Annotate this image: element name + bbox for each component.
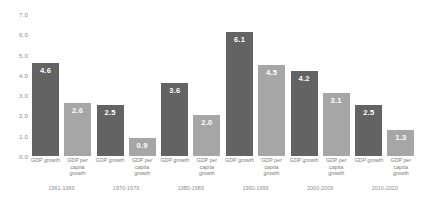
bar-group: 6.14.5: [224, 14, 289, 156]
y-axis: 0.01.02.03.04.05.06.07.0: [0, 0, 30, 205]
bar-gdp-growth[interactable]: 2.5: [97, 105, 124, 156]
bar-value-label: 4.5: [258, 68, 285, 77]
bar-value-label: 4.6: [32, 66, 59, 75]
y-axis-tick: 0.0: [2, 153, 28, 160]
bar-gdp-growth[interactable]: 4.6: [32, 63, 59, 156]
x-axis-group: GDP growthGDP percapitagrowth1970-1979: [95, 157, 160, 205]
x-axis-group: GDP growthGDP percapitagrowth2000-2009: [289, 157, 354, 205]
x-label-line: GDP per: [127, 157, 158, 164]
x-label-gdp-per-capita-growth: GDP percapitagrowth: [256, 157, 287, 177]
bar-gdp-per-capita-growth[interactable]: 0.9: [129, 138, 156, 156]
y-axis-tick: 6.0: [2, 31, 28, 38]
x-label-line: GDP per: [385, 157, 416, 164]
bar-value-label: 2.6: [64, 106, 91, 115]
bar-gdp-growth[interactable]: 3.6: [161, 83, 188, 156]
x-label-gdp-per-capita-growth: GDP percapitagrowth: [385, 157, 416, 177]
x-label-gdp-growth: GDP growth: [289, 157, 320, 164]
bar-group: 2.50.9: [95, 14, 160, 156]
x-label-line: GDP per: [321, 157, 352, 164]
bar-value-label: 6.1: [226, 35, 253, 44]
x-axis-period-label: 1961-1969: [30, 185, 93, 191]
x-axis-group: GDP growthGDP percapitagrowth1961-1969: [30, 157, 95, 205]
x-label-line: growth: [191, 170, 222, 177]
x-axis-period-label: 1980-1989: [159, 185, 222, 191]
x-label-line: GDP growth: [224, 157, 255, 164]
bar-gdp-per-capita-growth[interactable]: 4.5: [258, 65, 285, 156]
bar-gdp-per-capita-growth[interactable]: 3.1: [323, 93, 350, 156]
bar-chart: 0.01.02.03.04.05.06.07.0 4.62.62.50.93.6…: [0, 0, 421, 205]
bar-value-label: 1.3: [387, 133, 414, 142]
bar-value-label: 4.2: [291, 74, 318, 83]
x-label-gdp-growth: GDP growth: [224, 157, 255, 164]
x-label-line: GDP growth: [353, 157, 384, 164]
bar-value-label: 3.1: [323, 96, 350, 105]
bar-gdp-per-capita-growth[interactable]: 2.6: [64, 103, 91, 156]
x-label-gdp-growth: GDP growth: [159, 157, 190, 164]
x-label-line: capita: [385, 164, 416, 171]
x-label-line: growth: [321, 170, 352, 177]
x-label-gdp-growth: GDP growth: [30, 157, 61, 164]
y-axis-tick: 1.0: [2, 132, 28, 139]
y-axis-tick: 3.0: [2, 92, 28, 99]
bar-group: 2.51.3: [353, 14, 418, 156]
bar-gdp-growth[interactable]: 4.2: [291, 71, 318, 156]
x-label-gdp-per-capita-growth: GDP percapitagrowth: [321, 157, 352, 177]
x-label-gdp-growth: GDP growth: [353, 157, 384, 164]
x-axis-period-label: 1970-1979: [95, 185, 158, 191]
x-label-line: GDP growth: [95, 157, 126, 164]
bar-gdp-per-capita-growth[interactable]: 2.0: [193, 115, 220, 156]
y-axis-tick: 2.0: [2, 112, 28, 119]
x-axis-period-label: 2010-2020: [353, 185, 416, 191]
x-label-line: GDP per: [256, 157, 287, 164]
x-label-line: growth: [385, 170, 416, 177]
bar-gdp-growth[interactable]: 6.1: [226, 32, 253, 156]
x-label-gdp-growth: GDP growth: [95, 157, 126, 164]
x-axis-period-label: 1990-1999: [224, 185, 287, 191]
bar-value-label: 3.6: [161, 86, 188, 95]
x-label-line: GDP growth: [159, 157, 190, 164]
x-label-gdp-per-capita-growth: GDP percapitagrowth: [62, 157, 93, 177]
bar-group: 4.23.1: [289, 14, 354, 156]
bar-value-label: 0.9: [129, 141, 156, 150]
x-axis-group: GDP growthGDP percapitagrowth1990-1999: [224, 157, 289, 205]
bar-value-label: 2.5: [355, 108, 382, 117]
bar-value-label: 2.0: [193, 118, 220, 127]
y-axis-tick: 4.0: [2, 71, 28, 78]
bar-group: 3.62.0: [159, 14, 224, 156]
x-label-line: GDP growth: [289, 157, 320, 164]
bar-value-label: 2.5: [97, 108, 124, 117]
x-label-line: capita: [127, 164, 158, 171]
x-label-line: GDP per: [191, 157, 222, 164]
bar-gdp-growth[interactable]: 2.5: [355, 105, 382, 156]
x-label-line: growth: [127, 170, 158, 177]
x-label-gdp-per-capita-growth: GDP percapitagrowth: [191, 157, 222, 177]
x-label-gdp-per-capita-growth: GDP percapitagrowth: [127, 157, 158, 177]
x-label-line: capita: [191, 164, 222, 171]
x-label-line: growth: [62, 170, 93, 177]
x-axis-period-label: 2000-2009: [289, 185, 352, 191]
x-label-line: capita: [256, 164, 287, 171]
x-label-line: GDP growth: [30, 157, 61, 164]
x-label-line: growth: [256, 170, 287, 177]
y-axis-tick: 7.0: [2, 11, 28, 18]
bar-group: 4.62.6: [30, 14, 95, 156]
x-axis-group: GDP growthGDP percapitagrowth2010-2020: [353, 157, 418, 205]
x-label-line: capita: [62, 164, 93, 171]
x-label-line: capita: [321, 164, 352, 171]
x-axis: GDP growthGDP percapitagrowth1961-1969GD…: [30, 157, 418, 205]
bar-gdp-per-capita-growth[interactable]: 1.3: [387, 130, 414, 156]
x-label-line: GDP per: [62, 157, 93, 164]
y-axis-tick: 5.0: [2, 51, 28, 58]
x-axis-group: GDP growthGDP percapitagrowth1980-1989: [159, 157, 224, 205]
plot-area: 4.62.62.50.93.62.06.14.54.23.12.51.3: [30, 14, 418, 156]
